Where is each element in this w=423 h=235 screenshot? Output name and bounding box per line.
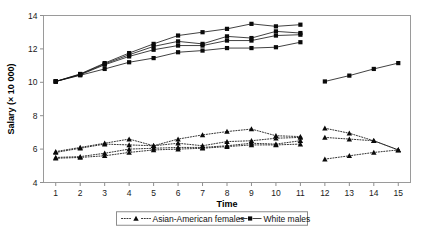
y-tick-label: 6 (33, 144, 38, 154)
data-point-square (274, 45, 278, 49)
data-point-square (298, 33, 302, 37)
data-point-square (372, 67, 376, 71)
y-tick-label: 4 (33, 178, 38, 188)
data-point-square (103, 67, 107, 71)
y-tick-label: 8 (33, 111, 38, 121)
data-point-triangle (53, 156, 58, 161)
data-point-square (298, 23, 302, 27)
x-axis-title: Time (217, 199, 238, 209)
data-point-square (176, 39, 180, 43)
x-tick-label: 4 (127, 188, 132, 198)
data-point-square (200, 48, 204, 52)
data-point-triangle (322, 156, 327, 161)
data-point-square (152, 48, 156, 52)
data-point-square (78, 73, 82, 77)
legend-label-0: Asian-American females (153, 214, 245, 224)
series-line (325, 63, 398, 81)
x-tick-label: 7 (200, 188, 205, 198)
series-line (56, 31, 301, 81)
data-point-square (274, 29, 278, 33)
data-point-square (225, 27, 229, 31)
x-tick-label: 13 (345, 188, 355, 198)
y-tick-label: 12 (28, 44, 38, 54)
data-point-square (249, 46, 253, 50)
x-tick-label: 14 (369, 188, 379, 198)
data-point-square (127, 54, 131, 58)
data-point-triangle (322, 135, 327, 140)
data-point-square (225, 34, 229, 38)
data-point-square (200, 30, 204, 34)
data-point-square (103, 63, 107, 67)
x-tick-label: 10 (271, 188, 281, 198)
data-point-square (249, 22, 253, 26)
chart-figure: 468101214123456789101112131415TimeSalary… (0, 0, 423, 235)
data-point-triangle (53, 150, 58, 155)
x-tick-label: 8 (225, 188, 230, 198)
data-point-square (225, 38, 229, 42)
x-tick-label: 12 (320, 188, 330, 198)
x-tick-label: 3 (102, 188, 107, 198)
series-line (56, 42, 301, 81)
data-point-square (176, 33, 180, 37)
data-point-square (200, 43, 204, 47)
data-point-triangle (322, 126, 327, 131)
data-point-square (249, 38, 253, 42)
x-tick-label: 5 (151, 188, 156, 198)
series-line (325, 137, 398, 150)
data-point-square (225, 46, 229, 50)
data-point-square (176, 50, 180, 54)
data-point-square (323, 79, 327, 83)
data-point-square (54, 79, 58, 83)
data-point-square (347, 74, 351, 78)
x-tick-label: 2 (78, 188, 83, 198)
x-tick-label: 6 (176, 188, 181, 198)
data-point-square (274, 33, 278, 37)
data-point-square (176, 43, 180, 47)
x-tick-label: 11 (296, 188, 305, 198)
data-point-square (127, 60, 131, 64)
y-tick-label: 10 (28, 77, 38, 87)
data-point-triangle (396, 147, 401, 152)
legend-label-1: White males (264, 214, 311, 224)
data-point-square (274, 24, 278, 28)
series-line (325, 128, 398, 150)
data-point-triangle (126, 136, 131, 141)
data-point-square (152, 56, 156, 60)
x-tick-label: 1 (53, 188, 58, 198)
series-line (325, 150, 398, 159)
x-tick-label: 9 (249, 188, 254, 198)
y-axis-title: Salary (× 10 000) (6, 64, 16, 135)
chart-svg: 468101214123456789101112131415TimeSalary… (0, 0, 423, 235)
x-tick-label: 15 (394, 188, 404, 198)
data-point-square (396, 61, 400, 65)
legend-marker-1 (248, 216, 252, 220)
data-point-square (298, 40, 302, 44)
y-tick-label: 14 (28, 11, 38, 21)
